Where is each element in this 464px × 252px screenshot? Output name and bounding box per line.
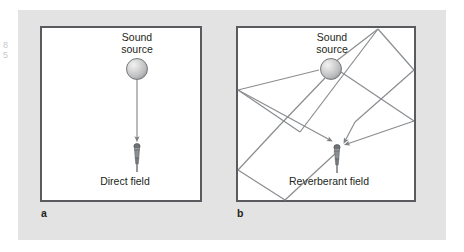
figure-container: 8 5 Sound source Direct field [0,0,464,252]
microphone-icon-b [0,0,464,252]
reverberant-field-label: Reverberant field [269,176,389,188]
panel-letter-b: b [237,207,244,219]
sound-source-label-b: Sound source [297,32,367,55]
